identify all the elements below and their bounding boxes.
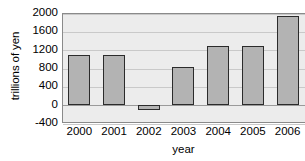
y-tick-label: 0 xyxy=(18,99,58,110)
x-tick-label: 2000 xyxy=(62,124,97,138)
y-tick-label: 400 xyxy=(18,80,58,91)
bar-2002[interactable] xyxy=(138,105,160,111)
x-tick-label: 2005 xyxy=(236,124,271,138)
bar-2001[interactable] xyxy=(103,55,125,105)
bar-slot xyxy=(97,13,132,123)
bar-slot xyxy=(131,13,166,123)
x-tick-label: 2006 xyxy=(270,124,305,138)
bar-slot xyxy=(201,13,236,123)
bar-2003[interactable] xyxy=(172,67,194,105)
x-tick-label: 2004 xyxy=(201,124,236,138)
y-tick-label: 1200 xyxy=(18,44,58,55)
x-tick-label: 2002 xyxy=(131,124,166,138)
bar-slot xyxy=(62,13,97,123)
x-tick-label: 2001 xyxy=(97,124,132,138)
x-axis-tick-labels: 2000200120022003200420052006 xyxy=(62,124,305,140)
chart-title xyxy=(62,0,305,1)
bar-slot xyxy=(236,13,271,123)
x-axis-title: year xyxy=(62,143,305,155)
bar-2005[interactable] xyxy=(242,46,264,104)
x-tick-label: 2003 xyxy=(166,124,201,138)
bar-slot xyxy=(166,13,201,123)
bar-2006[interactable] xyxy=(277,16,299,104)
y-tick-label: 1600 xyxy=(18,25,58,36)
bar-slot xyxy=(270,13,305,123)
y-tick-label: -400 xyxy=(18,117,58,128)
bar-2004[interactable] xyxy=(207,46,229,105)
y-tick-label: 2000 xyxy=(18,7,58,18)
y-tick-label: 800 xyxy=(18,62,58,73)
bar-chart-figure: trillions of yen 20002001200220032004200… xyxy=(0,0,305,161)
bar-2000[interactable] xyxy=(68,55,90,105)
bars-layer xyxy=(62,13,305,123)
